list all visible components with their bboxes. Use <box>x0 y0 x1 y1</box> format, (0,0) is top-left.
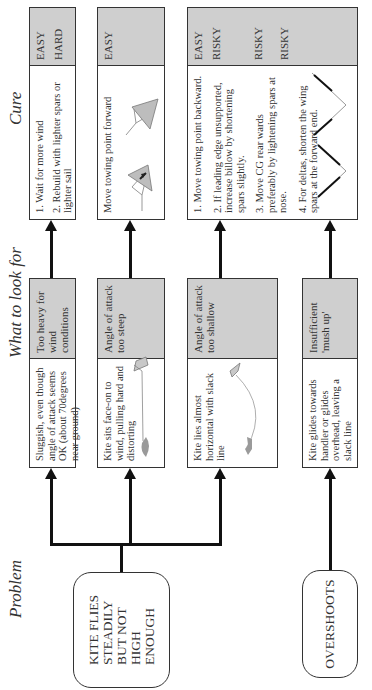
towing-point-forward-figure-icon <box>118 73 162 213</box>
problem-line: BUT NOT <box>115 595 129 665</box>
connector <box>219 228 222 278</box>
connector <box>129 228 132 278</box>
header-cure: Cure <box>6 92 26 125</box>
connector <box>50 543 222 546</box>
connector <box>219 476 222 546</box>
symptom-description: Kite glides towards handler or glides ov… <box>303 359 357 467</box>
symptom-box-1: Sluggish, even though angle of attack se… <box>29 278 76 468</box>
symptom-cause: Angle of attack too shallow <box>188 279 277 359</box>
rating-label: HARD <box>52 13 64 60</box>
header-what-to-look-for: What to look for <box>6 247 26 358</box>
cure-ratings: EASY <box>98 8 164 66</box>
cure-box-1: 1. Wait for more wind 2. Rebuild with li… <box>29 7 76 220</box>
connector <box>50 228 53 278</box>
arrow-icon <box>214 468 226 479</box>
cure-ratings: EASY HARD <box>30 8 75 66</box>
cure-item: 2. If leading edge unsupported, increase… <box>212 72 247 213</box>
header-problem: Problem <box>6 560 26 618</box>
arrow-icon <box>324 468 336 479</box>
problem-not-high-enough: KITE FLIES STEADILY BUT NOT HIGH ENOUGH <box>73 572 170 688</box>
cure-box-3: 1. Move towing point backward. 2. If lea… <box>187 7 358 220</box>
cure-item: 3. Move CG rear wards preferably by ligh… <box>254 72 289 213</box>
connector <box>120 545 123 572</box>
problem-line: STEADILY <box>101 595 115 665</box>
symptom-cause: Angle of attack too steep <box>98 279 164 359</box>
symptom-box-3: Kite lies almost horizontal with slack l… <box>187 278 278 468</box>
symptom-description: Sluggish, even though angle of attack se… <box>30 359 75 467</box>
cure-list: 1. Move towing point backward. 2. If lea… <box>188 66 357 219</box>
problem-line: ENOUGH <box>143 595 157 665</box>
symptom-box-2: Kite sits face-on to wind, pulling hard … <box>97 278 165 468</box>
kite-troubleshooting-diagram: Problem What to look for Cure KITE FLIES… <box>0 0 372 690</box>
arrow-icon <box>324 220 336 231</box>
rating-label: RISKY <box>210 13 222 60</box>
connector <box>329 228 332 278</box>
connector <box>129 476 132 546</box>
arrow-icon <box>124 220 136 231</box>
rating-label: EASY <box>34 13 46 60</box>
kite-horizontal-figure-icon <box>214 353 274 463</box>
symptom-box-4: Kite glides towards handler or glides ov… <box>302 278 358 468</box>
rating-label: RISKY <box>278 13 290 60</box>
arrow-icon <box>124 468 136 479</box>
cure-box-2: Move towing point forward EASY <box>97 7 165 220</box>
rating-label: RISKY <box>252 13 264 60</box>
arrow-icon <box>45 220 57 231</box>
rating-label: EASY <box>102 13 114 60</box>
connector <box>50 476 53 546</box>
problem-line: HIGH <box>129 595 143 665</box>
rating-label: EASY <box>192 13 204 60</box>
kite-face-on-figure-icon <box>126 353 162 463</box>
cure-ratings: EASY RISKY RISKY RISKY <box>188 8 357 66</box>
arrow-icon <box>214 220 226 231</box>
cure-item: 2. Rebuild with lighter spars or lighter… <box>51 72 74 213</box>
problem-line: KITE FLIES <box>87 595 101 665</box>
symptom-description: Kite lies almost horizontal with slack l… <box>188 359 277 467</box>
symptom-description: Kite sits face-on to wind, pulling hard … <box>98 359 164 467</box>
problem-line: OVERSHOOTS <box>323 579 337 668</box>
arrow-icon <box>45 468 57 479</box>
cure-list: Move towing point forward <box>98 66 164 219</box>
delta-spar-figure-icon <box>306 71 356 211</box>
cure-item: 1. Wait for more wind <box>34 72 46 213</box>
cure-item: Move towing point forward <box>102 72 114 213</box>
cure-list: 1. Wait for more wind 2. Rebuild with li… <box>30 66 75 219</box>
connector <box>329 476 332 570</box>
cure-item: 1. Move towing point backward. <box>192 72 204 213</box>
symptom-cause: Insufficient 'mush up' <box>303 279 357 359</box>
symptom-cause: Too heavy for wind conditions <box>30 279 75 359</box>
problem-overshoots: OVERSHOOTS <box>302 570 358 678</box>
